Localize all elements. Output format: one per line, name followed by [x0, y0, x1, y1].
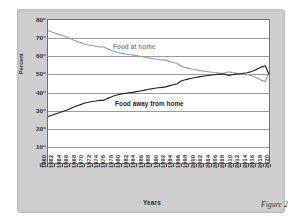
y-tick-mark — [43, 37, 46, 38]
y-tick-mark — [43, 73, 46, 74]
x-tick-label: 1990 — [153, 155, 159, 168]
series-label-food-away-from-home: Food away from home — [115, 100, 184, 107]
x-tick-label: 1960 — [41, 155, 47, 168]
x-tick-label: 2010 — [227, 155, 233, 168]
x-tick-label: 2006 — [212, 155, 218, 168]
x-tick-label: 1982 — [123, 155, 129, 168]
y-tick-mark — [43, 55, 46, 56]
x-tick-label: 1972 — [86, 155, 92, 168]
y-tick-mark — [43, 19, 46, 20]
x-tick-label: 1986 — [138, 155, 144, 168]
y-tick-label: 10 — [36, 142, 43, 149]
x-tick-mark — [151, 164, 152, 167]
y-tick-label: 40 — [36, 88, 43, 95]
x-axis: 1960196219641966196819701972197419761978… — [47, 164, 270, 200]
y-tick-label: 70 — [36, 34, 43, 41]
x-tick-label: 1978 — [108, 155, 114, 168]
x-tick-label: 1964 — [56, 155, 62, 168]
x-tick-label: 1968 — [71, 155, 77, 168]
y-tick-label: 60 — [36, 52, 43, 59]
x-tick-label: 1998 — [182, 155, 188, 168]
x-tick-mark — [84, 164, 85, 167]
x-tick-label: 2012 — [234, 155, 240, 168]
x-tick-mark — [270, 164, 271, 167]
x-tick-label: 1992 — [160, 155, 166, 168]
x-tick-label: 2016 — [249, 155, 255, 168]
y-tick-mark — [43, 109, 46, 110]
x-tick-label: 2020 — [264, 155, 270, 168]
x-tick-label: 1970 — [78, 155, 84, 168]
x-tick-mark — [255, 164, 256, 167]
x-tick-label: 2002 — [197, 155, 203, 168]
x-tick-label: 1994 — [167, 155, 173, 168]
x-tick-label: 2000 — [190, 155, 196, 168]
x-tick-mark — [203, 164, 204, 167]
x-tick-label: 1966 — [63, 155, 69, 168]
y-tick-label: 30 — [36, 106, 43, 113]
y-axis-title: Percent — [18, 53, 24, 74]
y-tick-mark — [43, 145, 46, 146]
x-tick-label: 2004 — [205, 155, 211, 168]
x-tick-label: 2008 — [219, 155, 225, 168]
x-tick-label: 1996 — [175, 155, 181, 168]
figure-container: Percent 01020304050607080 19601962196419… — [0, 0, 304, 222]
x-tick-label: 1962 — [48, 155, 54, 168]
series-label-food-at-home: Food at home — [113, 43, 155, 50]
y-tick-label: 20 — [36, 124, 43, 131]
y-axis: Percent 01020304050607080 — [20, 14, 46, 169]
x-tick-label: 1984 — [130, 155, 136, 168]
y-tick-mark — [43, 91, 46, 92]
x-tick-label: 1980 — [115, 155, 121, 168]
y-tick-label: 80 — [36, 16, 43, 23]
x-tick-label: 2014 — [242, 155, 248, 168]
x-tick-label: 2018 — [257, 155, 263, 168]
plot-area — [47, 19, 270, 164]
chart-lines — [48, 20, 269, 163]
x-tick-label: 1974 — [93, 155, 99, 168]
y-tick-label: 50 — [36, 70, 43, 77]
x-tick-label: 1988 — [145, 155, 151, 168]
x-axis-title: Years — [0, 199, 304, 206]
figure-caption: Figure 2 — [261, 200, 288, 209]
x-tick-label: 1976 — [100, 155, 106, 168]
y-tick-mark — [43, 127, 46, 128]
